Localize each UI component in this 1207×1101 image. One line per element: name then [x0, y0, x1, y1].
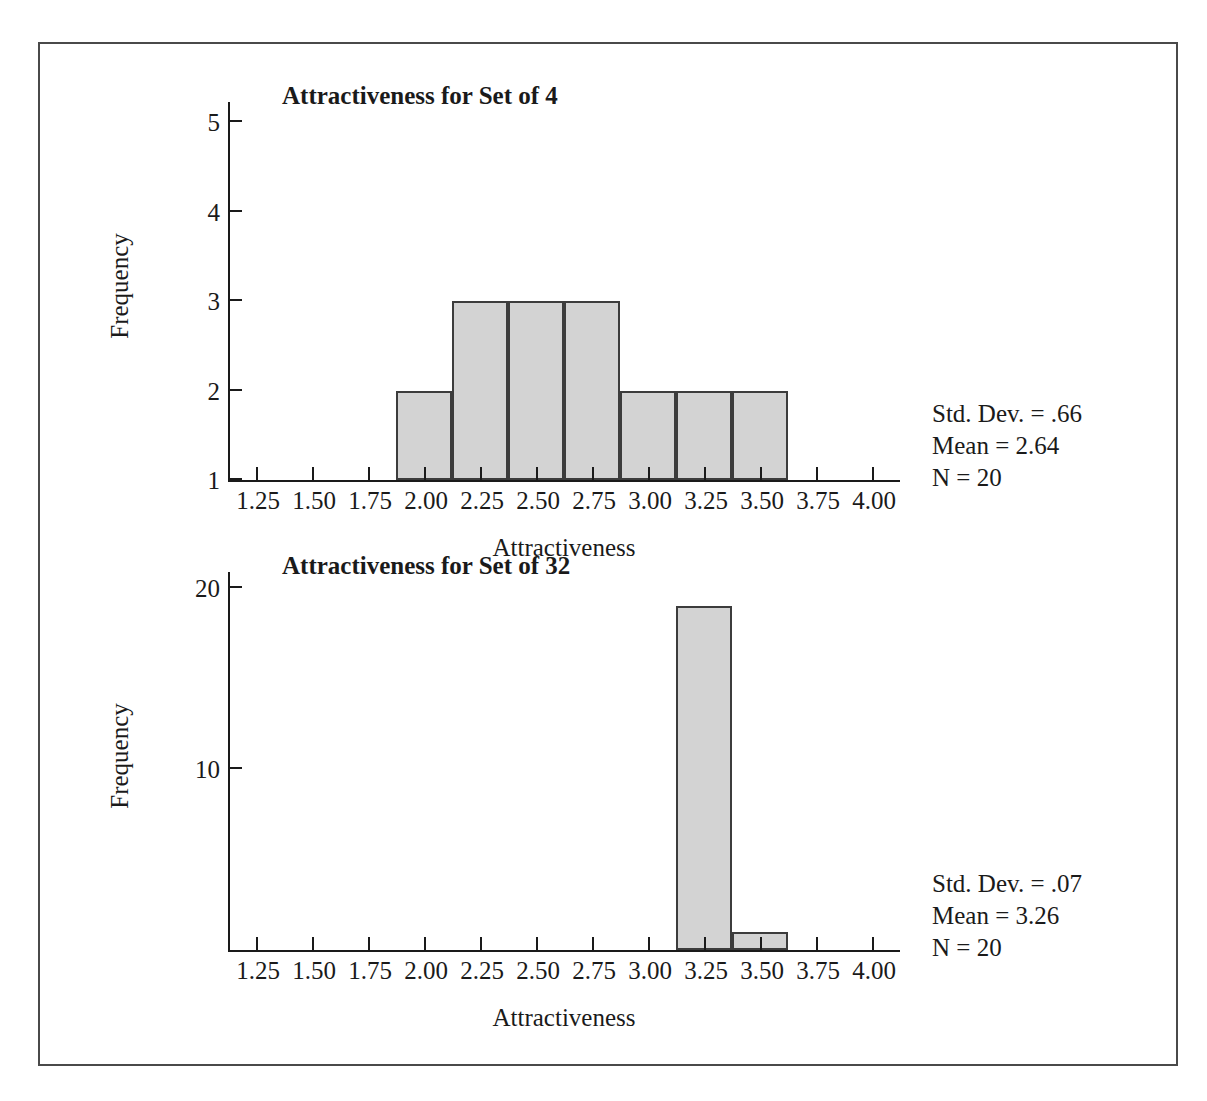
- x-tick-top-6: 2.75: [592, 467, 594, 480]
- y-tick-label-top-3: 4: [208, 199, 221, 224]
- x-axis-line-bottom: [228, 950, 900, 952]
- x-tick-label-bottom-5: 2.50: [516, 958, 560, 983]
- y-tick-label-top-0: 1: [208, 468, 221, 493]
- x-tick-bottom-11: 4.00: [872, 937, 874, 950]
- y-axis-title-top: Frequency: [106, 206, 134, 366]
- mean-top: Mean = 2.64: [932, 430, 1082, 462]
- x-tick-label-bottom-8: 3.25: [684, 958, 728, 983]
- x-tick-label-top-8: 3.25: [684, 488, 728, 513]
- bar-bottom-0: [676, 606, 732, 950]
- x-tick-label-top-1: 1.50: [292, 488, 336, 513]
- x-tick-bottom-5: 2.50: [536, 937, 538, 950]
- x-tick-label-top-5: 2.50: [516, 488, 560, 513]
- x-tick-label-top-3: 2.00: [404, 488, 448, 513]
- x-tick-bottom-0: 1.25: [256, 937, 258, 950]
- bar-top-1: [452, 301, 508, 480]
- n-top: N = 20: [932, 462, 1082, 494]
- x-tick-bottom-8: 3.25: [704, 937, 706, 950]
- y-tick-top-4: 5: [230, 120, 242, 122]
- plot-area-top: 12345 1.251.501.752.002.252.502.753.003.…: [228, 102, 900, 482]
- y-tick-top-3: 4: [230, 210, 242, 212]
- x-tick-bottom-2: 1.75: [368, 937, 370, 950]
- x-tick-top-11: 4.00: [872, 467, 874, 480]
- x-axis-title-bottom: Attractiveness: [492, 1004, 635, 1032]
- x-tick-top-3: 2.00: [424, 467, 426, 480]
- y-tick-label-top-1: 2: [208, 378, 221, 403]
- y-tick-top-1: 2: [230, 389, 242, 391]
- x-tick-bottom-6: 2.75: [592, 937, 594, 950]
- mean-bottom: Mean = 3.26: [932, 900, 1082, 932]
- x-tick-label-bottom-6: 2.75: [572, 958, 616, 983]
- x-tick-top-0: 1.25: [256, 467, 258, 480]
- x-tick-label-top-6: 2.75: [572, 488, 616, 513]
- x-tick-bottom-4: 2.25: [480, 937, 482, 950]
- x-tick-label-top-11: 4.00: [852, 488, 896, 513]
- x-tick-top-4: 2.25: [480, 467, 482, 480]
- x-tick-label-bottom-1: 1.50: [292, 958, 336, 983]
- x-tick-label-top-2: 1.75: [348, 488, 392, 513]
- std-dev-bottom: Std. Dev. = .07: [932, 868, 1082, 900]
- x-tick-label-bottom-9: 3.50: [740, 958, 784, 983]
- x-axis-line-top: [228, 480, 900, 482]
- x-tick-label-top-4: 2.25: [460, 488, 504, 513]
- y-tick-bottom-0: 10: [230, 767, 242, 769]
- figure-frame: Attractiveness for Set of 4 Frequency At…: [38, 42, 1178, 1066]
- y-tick-label-top-2: 3: [208, 289, 221, 314]
- x-tick-bottom-9: 3.50: [760, 937, 762, 950]
- plot-area-bottom: 1020 1.251.501.752.002.252.502.753.003.2…: [228, 572, 900, 952]
- x-tick-label-top-10: 3.75: [796, 488, 840, 513]
- x-tick-label-bottom-3: 2.00: [404, 958, 448, 983]
- x-tick-label-bottom-11: 4.00: [852, 958, 896, 983]
- x-tick-top-8: 3.25: [704, 467, 706, 480]
- y-axis-line-bottom: [228, 572, 230, 952]
- x-tick-bottom-7: 3.00: [648, 937, 650, 950]
- x-tick-label-top-7: 3.00: [628, 488, 672, 513]
- x-tick-top-7: 3.00: [648, 467, 650, 480]
- x-tick-top-1: 1.50: [312, 467, 314, 480]
- x-tick-label-bottom-4: 2.25: [460, 958, 504, 983]
- x-tick-label-top-0: 1.25: [236, 488, 280, 513]
- x-tick-label-bottom-10: 3.75: [796, 958, 840, 983]
- x-tick-top-2: 1.75: [368, 467, 370, 480]
- x-tick-bottom-10: 3.75: [816, 937, 818, 950]
- stats-annotation-top: Std. Dev. = .66 Mean = 2.64 N = 20: [932, 398, 1082, 494]
- bar-top-2: [508, 301, 564, 480]
- y-tick-top-2: 3: [230, 299, 242, 301]
- x-tick-label-top-9: 3.50: [740, 488, 784, 513]
- std-dev-top: Std. Dev. = .66: [932, 398, 1082, 430]
- x-tick-label-bottom-7: 3.00: [628, 958, 672, 983]
- x-tick-bottom-1: 1.50: [312, 937, 314, 950]
- y-axis-title-bottom: Frequency: [106, 676, 134, 836]
- x-tick-top-10: 3.75: [816, 467, 818, 480]
- histogram-panel-set-of-32: Attractiveness for Set of 32 Frequency A…: [40, 524, 1176, 1004]
- stats-annotation-bottom: Std. Dev. = .07 Mean = 3.26 N = 20: [932, 868, 1082, 964]
- x-tick-top-9: 3.50: [760, 467, 762, 480]
- y-tick-label-bottom-0: 10: [195, 757, 220, 782]
- x-tick-top-5: 2.50: [536, 467, 538, 480]
- x-tick-bottom-3: 2.00: [424, 937, 426, 950]
- y-tick-label-bottom-1: 20: [195, 576, 220, 601]
- x-tick-label-bottom-2: 1.75: [348, 958, 392, 983]
- y-axis-line-top: [228, 102, 230, 482]
- histogram-panel-set-of-4: Attractiveness for Set of 4 Frequency At…: [40, 54, 1176, 534]
- bar-top-3: [564, 301, 620, 480]
- y-tick-label-top-4: 5: [208, 110, 221, 135]
- n-bottom: N = 20: [932, 932, 1082, 964]
- y-tick-top-0: 1: [230, 478, 242, 480]
- y-tick-bottom-1: 20: [230, 586, 242, 588]
- x-tick-label-bottom-0: 1.25: [236, 958, 280, 983]
